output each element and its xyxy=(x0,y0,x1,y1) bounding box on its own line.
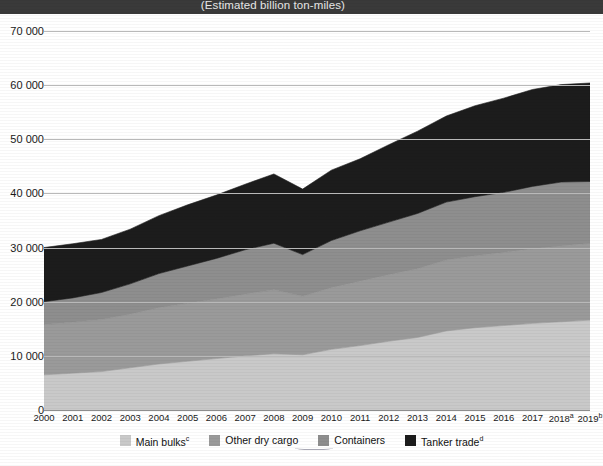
y-tick-label: 20 000 xyxy=(4,297,44,307)
x-tick-label-2019: 2019b xyxy=(570,412,603,424)
gridline-60000 xyxy=(44,85,590,86)
gridline-70000 xyxy=(44,31,590,32)
y-tick-label: 30 000 xyxy=(4,243,44,253)
gridline-40000 xyxy=(44,193,590,194)
y-tick-label: 60 000 xyxy=(4,80,44,90)
legend-swatch-tanker-trade xyxy=(405,435,416,446)
legend-label-main-bulks: Main bulksc xyxy=(136,433,190,448)
legend-label-other-dry-cargo: Other dry cargo xyxy=(225,435,298,446)
legend-label-containers: Containers xyxy=(334,435,385,446)
y-axis-tick-labels: 010 00020 00030 00040 00050 00060 00070 … xyxy=(0,14,44,414)
stacked-area-plot xyxy=(44,31,590,410)
legend-label-tanker-trade: Tanker traded xyxy=(421,433,483,448)
gridline-30000 xyxy=(44,248,590,249)
x-axis-tick-labels: 2000200120022003200420052006200720082009… xyxy=(44,412,590,428)
gridline-20000 xyxy=(44,302,590,303)
gridline-10000 xyxy=(44,356,590,357)
y-tick-label: 40 000 xyxy=(4,188,44,198)
legend-swatch-other-dry-cargo xyxy=(209,435,220,446)
y-tick-label: 50 000 xyxy=(4,134,44,144)
chart-legend: Main bulkscOther dry cargoContainersTank… xyxy=(0,430,603,450)
area-series-group xyxy=(44,31,590,410)
y-tick-label: 10 000 xyxy=(4,351,44,361)
chart-container: 010 00020 00030 00040 00050 00060 00070 … xyxy=(0,14,603,414)
legend-item-main-bulks[interactable]: Main bulksc xyxy=(120,433,190,448)
legend-item-other-dry-cargo[interactable]: Other dry cargo xyxy=(209,435,298,446)
legend-item-tanker-trade[interactable]: Tanker traded xyxy=(405,433,483,448)
unit-caption: (Estimated billion ton-miles) xyxy=(201,0,345,11)
containers-pencil-underline xyxy=(295,445,333,450)
legend-swatch-main-bulks xyxy=(120,435,131,446)
legend-item-containers[interactable]: Containers xyxy=(318,435,385,446)
unit-caption-band: (Estimated billion ton-miles) xyxy=(0,0,603,14)
gridline-50000 xyxy=(44,139,590,140)
x-axis-line xyxy=(44,410,590,411)
legend-swatch-containers xyxy=(318,435,329,446)
y-tick-label: 70 000 xyxy=(4,26,44,36)
